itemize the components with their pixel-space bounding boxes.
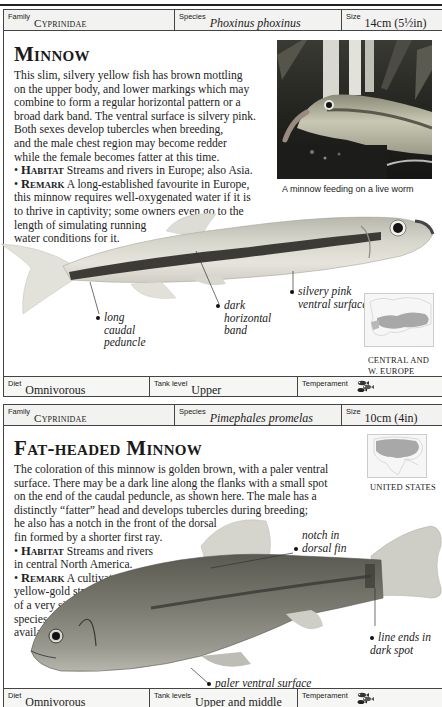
annotation-text: notch in	[294, 529, 346, 542]
tank-level-label: Tank levels	[154, 691, 191, 700]
bullet-dot	[96, 316, 100, 320]
bullet-dot	[294, 547, 298, 551]
fathead-minnow-illustration	[1, 516, 442, 688]
minnow-panel: Minnow This slim, silvery yellow fish ha…	[3, 31, 442, 376]
temperament-label: Temperament	[302, 691, 348, 700]
minnow-title: Minnow	[14, 42, 90, 67]
annotation-text: ventral surface	[290, 298, 367, 311]
size-cell: Size 10cm (4in)	[342, 405, 442, 425]
species-cell: Species Phoxinus phoxinus	[175, 10, 342, 30]
annotation-text: dark spot	[370, 644, 431, 657]
family-cell: Family Cyprinidae	[4, 10, 175, 30]
annotation-silvery-pink-ventral: silvery pink ventral surface	[290, 285, 367, 310]
minnow-photo	[277, 40, 432, 179]
desc-line: broad dark band. The ventral surface is …	[14, 110, 284, 124]
tank-level-value: Upper	[191, 383, 221, 396]
desc-line: The coloration of this minnow is golden …	[14, 463, 344, 477]
desc-line: and the male chest region may become red…	[14, 137, 284, 151]
temperament-label: Temperament	[302, 379, 348, 388]
europe-range-map	[364, 293, 434, 347]
annotation-text: peduncle	[96, 336, 146, 349]
size-label: Size	[346, 12, 361, 21]
desc-line: on the end of the caudal peduncle, as sh…	[14, 490, 344, 504]
range-label: CENTRAL AND W. EUROPE	[368, 355, 429, 377]
tank-level-value: Upper and middle	[195, 695, 282, 707]
diet-value: Omnivorous	[25, 383, 85, 396]
annotation-text: caudal	[96, 324, 146, 337]
species-value: Phoxinus phoxinus	[210, 16, 301, 30]
fathead-header-bar: Family Cyprinidae Species Pimephales pro…	[3, 404, 442, 426]
annotation-text: horizontal	[216, 312, 271, 325]
range-label-line: UNITED STATES	[370, 482, 436, 493]
size-label: Size	[346, 407, 361, 416]
diet-label: Diet	[8, 691, 21, 700]
temperament-cell: Temperament	[298, 377, 442, 396]
desc-line: Both sexes develop tubercles when breedi…	[14, 123, 284, 137]
family-value: Cyprinidae	[34, 412, 86, 424]
top-rule	[0, 4, 442, 6]
range-label: UNITED STATES	[370, 482, 436, 493]
annotation-text: dorsal fin	[302, 542, 346, 554]
north-america-range-map	[367, 434, 427, 478]
habitat-line: • Habitat Streams and rivers in Europe; …	[14, 164, 284, 178]
photo-caption: A minnow feeding on a live worm	[282, 184, 414, 194]
remark-line: • Remark A long-established favourite in…	[14, 178, 284, 192]
fathead-title: Fat-headed Minnow	[14, 436, 202, 461]
minnow-feeding-photo-image	[277, 40, 432, 179]
fathead-footer-bar: Diet Omnivorous Tank levels Upper and mi…	[3, 688, 442, 707]
size-value: 14cm (5½in)	[365, 16, 427, 30]
bullet-dot	[216, 304, 220, 308]
tank-level-label: Tank level	[154, 379, 187, 388]
fish-group-icon	[356, 691, 374, 707]
species-label: Species	[179, 407, 206, 416]
annotation-text: dark	[224, 299, 245, 311]
minnow-footer-bar: Diet Omnivorous Tank level Upper Tempera…	[3, 376, 442, 397]
habitat-text: Streams and rivers in Europe; also Asia.	[67, 164, 253, 177]
fathead-panel: Fat-headed Minnow The coloration of this…	[3, 426, 442, 688]
family-value: Cyprinidae	[34, 17, 86, 29]
annotation-line-ends-in-dark-spot: line ends in dark spot	[370, 631, 431, 656]
annotation-notch-in-dorsal-fin: notch in dorsal fin	[294, 529, 346, 554]
family-label: Family	[8, 407, 30, 416]
bullet-dot	[290, 290, 294, 294]
remark-text: this minnow requires well-oxygenated wat…	[14, 191, 284, 205]
annotation-dark-horizontal-band: dark horizontal band	[216, 299, 271, 337]
north-america-map-image	[368, 435, 427, 478]
species-label: Species	[179, 12, 206, 21]
desc-line: combine to form a regular horizontal pat…	[14, 96, 284, 110]
desc-line: on the upper body, and lower markings wh…	[14, 83, 284, 97]
diet-value: Omnivorous	[25, 695, 85, 707]
diet-cell: Diet Omnivorous	[4, 377, 150, 396]
desc-line: surface. There may be a dark line along …	[14, 477, 344, 491]
size-cell: Size 14cm (5½in)	[342, 10, 442, 30]
size-value: 10cm (4in)	[365, 411, 418, 425]
remark-text: A long-established favourite in Europe,	[67, 178, 250, 191]
family-cell: Family Cyprinidae	[4, 405, 175, 425]
family-label: Family	[8, 12, 30, 21]
range-label-line: CENTRAL AND	[368, 355, 429, 366]
temperament-cell: Temperament	[298, 689, 442, 707]
fish-group-icon	[356, 379, 374, 396]
habitat-label: Habitat	[21, 163, 64, 177]
remark-label: Remark	[21, 177, 65, 191]
tank-level-cell: Tank levels Upper and middle	[150, 689, 298, 707]
bullet-dot	[207, 682, 211, 686]
desc-line: This slim, silvery yellow fish has brown…	[14, 69, 284, 83]
species-cell: Species Pimephales promelas	[175, 405, 342, 425]
annotation-text: band	[216, 324, 271, 337]
annotation-text: long	[104, 311, 124, 323]
diet-label: Diet	[8, 379, 21, 388]
diet-cell: Diet Omnivorous	[4, 689, 150, 707]
bullet-dot	[370, 636, 374, 640]
minnow-header-bar: Family Cyprinidae Species Phoxinus phoxi…	[3, 9, 442, 31]
species-value: Pimephales promelas	[210, 411, 313, 425]
desc-line: while the female becomes fatter at this …	[14, 151, 284, 165]
annotation-long-caudal-peduncle: long caudal peduncle	[96, 311, 146, 349]
tank-level-cell: Tank level Upper	[150, 377, 298, 396]
annotation-text: line ends in	[378, 631, 431, 643]
europe-map-image	[365, 294, 434, 347]
annotation-text: silvery pink	[298, 285, 351, 297]
